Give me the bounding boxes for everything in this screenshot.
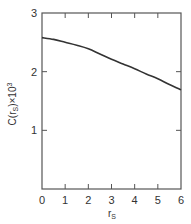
y-tick-label: 2 [31, 66, 37, 78]
chart: 0123456 123 rS C(rS)×103 [0, 0, 191, 224]
x-tick-label: 1 [62, 194, 68, 206]
x-tick-label: 6 [178, 194, 184, 206]
x-axis-label: rS [108, 208, 116, 220]
x-tick-label: 3 [108, 194, 114, 206]
data-line [42, 38, 181, 90]
plot-border [42, 13, 181, 189]
y-axis-ticks: 123 [31, 7, 181, 136]
x-tick-label: 4 [132, 194, 138, 206]
plot-frame [42, 13, 181, 189]
y-tick-label: 3 [31, 7, 37, 19]
x-tick-label: 5 [155, 194, 161, 206]
x-tick-label: 0 [39, 194, 45, 206]
y-tick-label: 1 [31, 124, 37, 136]
x-tick-label: 2 [85, 194, 91, 206]
y-axis-label: C(rS)×103 [6, 83, 19, 126]
